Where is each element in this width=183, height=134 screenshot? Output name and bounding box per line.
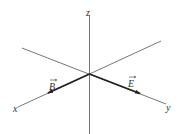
x-axis-label: x bbox=[12, 103, 18, 114]
y-axis-label: y bbox=[165, 102, 171, 113]
e-vector-label: E bbox=[127, 78, 134, 89]
diagram-canvas: z x y B E bbox=[0, 0, 183, 134]
b-vector-label: B bbox=[49, 81, 55, 92]
z-axis-label: z bbox=[85, 7, 90, 18]
